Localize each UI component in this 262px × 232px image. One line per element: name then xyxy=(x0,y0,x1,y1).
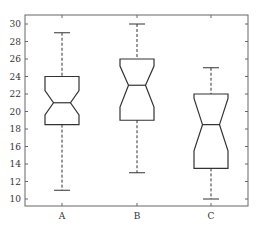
notched-box xyxy=(194,94,228,168)
box-c xyxy=(194,68,228,199)
box-b xyxy=(120,24,154,173)
y-tick-label: 24 xyxy=(10,72,22,82)
y-tick-label: 28 xyxy=(10,37,22,47)
y-tick-label: 16 xyxy=(10,142,22,152)
y-tick-label: 12 xyxy=(10,177,21,187)
y-tick-label: 22 xyxy=(10,89,21,99)
x-axis: ABC xyxy=(58,15,215,221)
box-plot-chart: 1012141618202224262830 ABC xyxy=(0,0,262,232)
y-axis: 1012141618202224262830 xyxy=(10,19,248,204)
y-tick-label: 26 xyxy=(10,54,22,64)
boxes xyxy=(45,24,228,199)
x-category-label: A xyxy=(58,211,66,221)
x-category-label: C xyxy=(208,211,215,221)
notched-box xyxy=(45,77,79,125)
notched-box xyxy=(120,59,154,120)
y-tick-label: 14 xyxy=(10,159,22,169)
x-category-label: B xyxy=(134,211,141,221)
box-a xyxy=(45,33,79,191)
y-tick-label: 20 xyxy=(10,107,22,117)
y-tick-label: 18 xyxy=(10,124,22,134)
y-tick-label: 30 xyxy=(10,19,22,29)
plot-frame xyxy=(25,15,248,206)
y-tick-label: 10 xyxy=(10,194,22,204)
